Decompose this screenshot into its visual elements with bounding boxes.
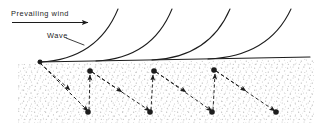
wave-crest-curve xyxy=(152,9,230,60)
orbital-particle-dot xyxy=(151,68,157,74)
orbital-particle-dot xyxy=(209,109,215,115)
wave-label: Wave xyxy=(47,31,68,40)
orbital-particle-dot xyxy=(87,68,93,74)
wave-sediment-transport-diagram: Prevailing wind Wave xyxy=(0,0,314,123)
orbital-particle-dot xyxy=(211,67,217,73)
wave-leader-line xyxy=(66,38,84,45)
wave-crest-group xyxy=(40,9,291,62)
orbital-particle-dot xyxy=(273,109,279,115)
orbital-particle-dot xyxy=(85,109,91,115)
orbital-particle-dot xyxy=(147,109,153,115)
orbital-particle-dot xyxy=(38,60,43,65)
sediment-layer xyxy=(18,59,314,123)
wave-crest-curve xyxy=(208,9,291,59)
wave-crest-curve xyxy=(96,9,172,61)
prevailing-wind-label: Prevailing wind xyxy=(11,9,69,18)
sediment-fill-overlay xyxy=(18,59,314,123)
diagram-canvas: Prevailing wind Wave xyxy=(0,0,314,123)
